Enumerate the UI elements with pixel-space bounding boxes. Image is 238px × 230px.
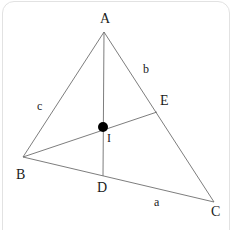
point-label-i: I [107, 132, 111, 144]
point-label-d: D [97, 181, 107, 195]
vertex-label-a: A [100, 12, 110, 26]
vertex-label-c: C [211, 205, 220, 219]
side-label-c: c [37, 100, 42, 112]
point-label-e: E [160, 94, 169, 108]
cevian-ad [103, 32, 104, 176]
segment-ab [23, 32, 104, 157]
segment-bc [23, 157, 214, 202]
diagram-canvas: A B C D E I a b c [0, 0, 238, 230]
segment-ac [104, 32, 214, 202]
vertex-label-b: B [16, 168, 25, 182]
triangle-figure [0, 0, 238, 230]
triangle-outline [23, 32, 214, 202]
side-label-b: b [143, 63, 149, 75]
side-label-a: a [154, 196, 159, 208]
cevian-be [23, 112, 157, 157]
